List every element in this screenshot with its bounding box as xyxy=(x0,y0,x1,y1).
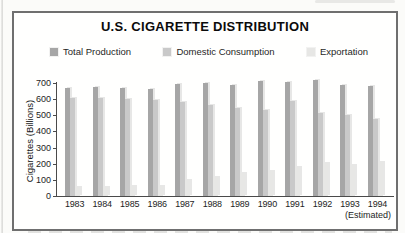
x-tick-label: 1987 xyxy=(175,199,190,209)
x-tick-label: 1992 xyxy=(313,199,328,209)
legend-swatch-icon xyxy=(163,48,171,56)
y-tick-label: 300 xyxy=(26,143,51,153)
y-tick-label: 500 xyxy=(26,110,51,120)
bar-domestic-consumption-1986 xyxy=(153,100,158,196)
legend-item: Domestic Consumption xyxy=(163,46,274,57)
x-tick-label: 1984 xyxy=(93,199,108,209)
bar-exportation-1985 xyxy=(130,186,135,196)
x-axis-labels: 1983198419851986198719881989199019911992… xyxy=(57,199,391,209)
bar-exportation-1992 xyxy=(323,163,328,196)
bar-exportation-1984 xyxy=(103,187,108,196)
chart-title: U.S. CIGARETTE DISTRIBUTION xyxy=(14,19,396,34)
bar-domestic-consumption-1983 xyxy=(70,98,75,196)
bar-group-1983 xyxy=(65,88,80,196)
chart-frame: U.S. CIGARETTE DISTRIBUTION Total Produc… xyxy=(12,11,398,231)
bar-group-1994 xyxy=(368,86,383,196)
x-tick-label: 1985 xyxy=(120,199,135,209)
bar-exportation-1993 xyxy=(350,165,355,197)
x-tick-label: 1990 xyxy=(258,199,273,209)
x-tick-label: 1988 xyxy=(203,199,218,209)
legend-item: Total Production xyxy=(50,46,131,57)
x-tick-label: 1994 xyxy=(368,199,383,209)
legend-swatch-icon xyxy=(50,48,58,56)
bar-exportation-1991 xyxy=(295,167,300,196)
bar-domestic-consumption-1985 xyxy=(125,99,130,197)
y-tick-label: 200 xyxy=(26,159,51,169)
bar-group-1993 xyxy=(340,85,355,196)
x-tick-label: 1993 xyxy=(340,199,355,209)
bar-exportation-1986 xyxy=(158,186,163,197)
bar-domestic-consumption-1984 xyxy=(98,98,103,197)
x-tick-label: 1991 xyxy=(285,199,300,209)
plot-area xyxy=(57,83,391,196)
x-tick-label: 1989 xyxy=(230,199,245,209)
y-tick-label: 700 xyxy=(26,78,51,88)
bar-group-1986 xyxy=(148,89,163,196)
legend-item: Exportation xyxy=(307,46,368,57)
bar-group-1990 xyxy=(258,81,273,196)
bar-group-1985 xyxy=(120,88,135,196)
bar-exportation-1987 xyxy=(185,180,190,196)
x-axis-line xyxy=(56,196,394,197)
x-tick-label: 1986 xyxy=(148,199,163,209)
bar-exportation-1983 xyxy=(75,187,80,196)
scan-page-edge xyxy=(1,0,3,233)
scan-artifact-top xyxy=(315,0,395,3)
legend-label: Total Production xyxy=(63,46,131,57)
chart-legend: Total ProductionDomestic ConsumptionExpo… xyxy=(14,46,396,57)
bar-group-1984 xyxy=(93,87,108,196)
y-tick-label: 400 xyxy=(26,126,51,136)
y-axis-ticks: 0100200300400500600700 xyxy=(26,83,56,196)
bar-exportation-1990 xyxy=(268,171,273,196)
bar-group-1989 xyxy=(230,85,245,196)
bar-group-1992 xyxy=(313,80,328,196)
bar-group-1987 xyxy=(175,84,190,196)
bar-exportation-1989 xyxy=(240,173,245,196)
legend-label: Exportation xyxy=(320,46,368,57)
x-tick-label: 1983 xyxy=(65,199,80,209)
legend-label: Domestic Consumption xyxy=(176,46,274,57)
y-tick-label: 0 xyxy=(26,191,51,201)
y-tick-label: 100 xyxy=(26,175,51,185)
x-axis-estimated-note: (Estimated) xyxy=(345,210,391,220)
y-tick-label: 600 xyxy=(26,94,51,104)
bar-group-1988 xyxy=(203,83,218,196)
bar-exportation-1994 xyxy=(378,162,383,196)
bar-group-1991 xyxy=(285,82,300,196)
bar-exportation-1988 xyxy=(213,177,218,196)
legend-swatch-icon xyxy=(307,48,315,56)
